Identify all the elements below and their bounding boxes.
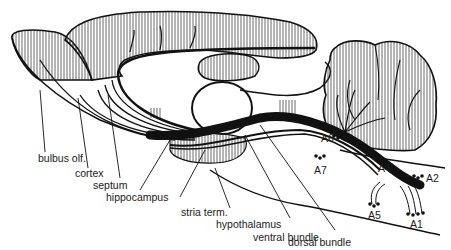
label-A7: A7 (314, 164, 327, 176)
brain-pathway-diagram: bulbus olf. cortex septum hippocampus st… (0, 0, 451, 250)
label-bulbus-olf: bulbus olf. (38, 152, 86, 164)
label-A5: A5 (368, 209, 381, 221)
cell-group-A7 (314, 154, 326, 160)
label-hippocampus: hippocampus (106, 191, 168, 203)
hippocampus (198, 54, 258, 81)
label-septum: septum (93, 179, 128, 191)
label-A2: A2 (426, 172, 439, 184)
label-A1: A1 (410, 218, 423, 230)
label-A4: A4 (378, 162, 391, 174)
cell-group-A5 (368, 202, 380, 208)
label-hypothalamus: hypothalamus (216, 218, 281, 230)
label-dorsal-bundle: dorsal bundle (288, 236, 351, 248)
label-stria-term: stria term. (181, 206, 228, 218)
label-A6: A6 (321, 132, 334, 144)
label-cortex: cortex (75, 167, 104, 179)
